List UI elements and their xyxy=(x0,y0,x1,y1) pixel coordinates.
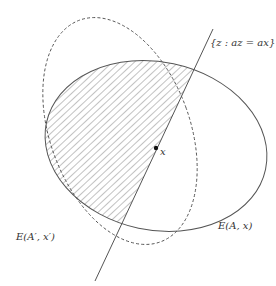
point-label: x xyxy=(160,146,166,157)
dashed-ellipse-label: E(A′, x′) xyxy=(15,231,55,242)
ellipsoid-cut-diagram: {z : az = ax} x E(A, x) E(A′, x′) xyxy=(0,0,276,286)
center-point-x xyxy=(154,146,158,150)
solid-ellipse-label: E(A, x) xyxy=(217,220,252,231)
hyperplane-label: {z : az = ax} xyxy=(210,37,275,48)
